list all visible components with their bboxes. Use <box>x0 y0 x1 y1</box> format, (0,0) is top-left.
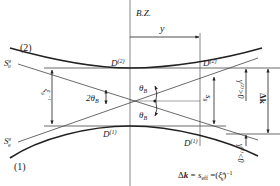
theta-upper-label: θB <box>139 83 147 94</box>
branch-1-curve <box>10 126 258 158</box>
sg-label-s: Sgg <box>4 136 12 147</box>
d1-right-label: D(1) <box>183 138 198 148</box>
bz-label: B.Z. <box>136 8 151 18</box>
svg-text:γ(2)>0: γ(2)>0 <box>236 80 245 98</box>
svg-text:sg: sg <box>203 95 214 102</box>
d1-left-label: D(1) <box>102 129 117 139</box>
theta-lower-label: θB <box>139 110 147 121</box>
svg-text:ξg−1: ξg−1 <box>41 89 52 101</box>
s0-asymptote-line <box>18 64 258 140</box>
delta-k-label: Δk <box>258 93 268 104</box>
sg-label: sg <box>203 95 214 102</box>
theta-lower-arc <box>155 102 157 116</box>
sg-asymptote-line <box>18 58 258 142</box>
d2-right-label: D(2) <box>202 58 217 68</box>
branch-2-label: (2) <box>20 42 32 54</box>
svg-text:Δk: Δk <box>258 93 268 104</box>
intersection-dot <box>153 99 156 102</box>
s0-label: Sg0 <box>4 58 12 69</box>
branch-1-label: (1) <box>14 161 26 173</box>
branch-2-curve <box>10 48 262 68</box>
delta-k-formula: Δk = seff =(ξπg)−1 <box>178 170 233 181</box>
svg-text:γ(1)<0: γ(1)<0 <box>236 144 245 162</box>
y-label: y <box>159 23 165 34</box>
theta-upper-arc <box>155 86 157 100</box>
xi-inv-label: ξg−1 <box>41 89 52 101</box>
gamma2-label: γ(2)>0 <box>236 80 245 98</box>
d2-left-label: D(2) <box>110 58 125 68</box>
gamma1-label: γ(1)<0 <box>236 144 245 162</box>
dispersion-diagram: B.Z. y ξg−1 2θB θB θB sg γ(2)>0 γ(1)<0 <box>0 0 280 186</box>
two-theta-label: 2θB <box>86 93 99 104</box>
